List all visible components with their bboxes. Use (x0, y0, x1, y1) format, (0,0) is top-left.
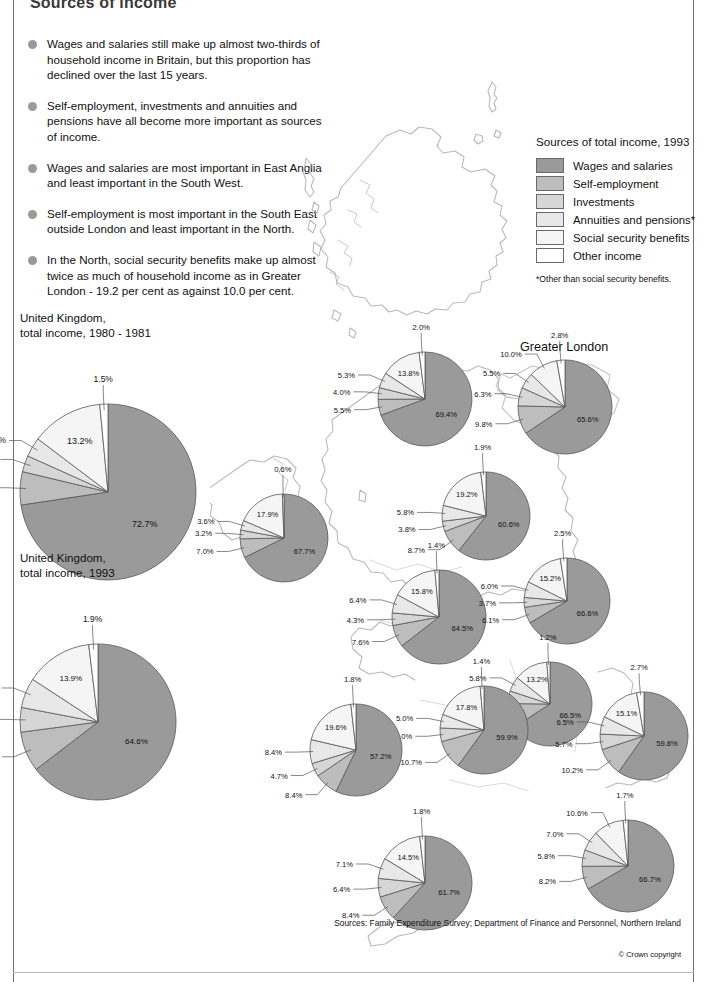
pie-leader-line (577, 722, 605, 726)
pie-slice-label: 4.7% (270, 772, 288, 781)
pie-leader-line (576, 742, 604, 744)
pie-slice-label: 8.4% (265, 748, 283, 757)
list-item-text: In the North, social security benefits m… (47, 252, 328, 299)
pie-leader-line (503, 373, 529, 382)
pie-slice-label: 5.8% (538, 852, 556, 861)
pie-slice-label: 1.9% (83, 614, 103, 624)
pie-slice-label: 9.8% (475, 420, 493, 429)
list-item-text: Wages and salaries still make up almost … (47, 36, 328, 83)
pie-slice-label: 66.7% (639, 875, 661, 884)
pie-slice-label: 5.7% (555, 740, 573, 749)
pie-leader-line (356, 864, 383, 869)
pie-leader-line (353, 887, 381, 889)
legend-label: Social security benefits (573, 232, 690, 244)
list-item: Wages and salaries still make up almost … (28, 36, 328, 83)
pie-slice-label: 15.8% (411, 587, 433, 596)
pie-slice-label: 3.6% (197, 517, 215, 526)
list-item-text: Self-employment, investments and annuiti… (47, 98, 328, 145)
pie-leader-line (494, 394, 522, 398)
pie-leader-line (217, 548, 245, 552)
list-item-text: Self-employment is most important in the… (47, 206, 328, 237)
pie-slice-label: 17.9% (257, 510, 279, 519)
list-item: Wages and salaries are most important in… (28, 160, 328, 191)
pie-slice-label: 8.4% (285, 791, 303, 800)
pie-slice-label: 5.5% (483, 369, 501, 378)
pie-slice-label: 5.3% (338, 371, 356, 380)
pie-graphic: 61.7%8.4%6.4%7.1%14.5%1.8% (320, 778, 530, 982)
pie-slice-label: 8.2% (539, 877, 557, 886)
pie-slice-label: 2.7% (631, 663, 649, 672)
pie-slice-label: 6.0% (481, 582, 499, 591)
legend-item-self-employment: Self-employment (536, 176, 701, 191)
legend: Sources of total income, 1993 Wages and … (536, 134, 701, 284)
chart-title: United Kingdom, total income, 1980 - 198… (20, 310, 254, 340)
pie-slice-label: 7.0% (196, 547, 214, 556)
pie-slice-label: 6.4% (333, 885, 351, 894)
pie-slice-label: 7.1% (336, 860, 354, 869)
pie-slice-label: 59.9% (496, 733, 518, 742)
pie-slice-label: 4.3% (347, 616, 365, 625)
legend-title: Sources of total income, 1993 (536, 134, 701, 149)
pie-slice-label: 15.2% (539, 574, 561, 583)
pie-slice-label: 10.0% (500, 350, 522, 359)
pie-leader-line (499, 602, 527, 603)
pie-chart-south-west: 61.7%8.4%6.4%7.1%14.5%1.8% (320, 778, 530, 982)
legend-footnote: *Other than social security benefits. (536, 274, 701, 284)
legend-label: Self-employment (573, 178, 658, 190)
pie-leader-line (0, 719, 25, 720)
pie-leader-line (559, 877, 587, 881)
pie-slice-label: 2.5% (554, 529, 572, 538)
legend-label: Investments (573, 196, 634, 208)
list-item: Self-employment, investments and annuiti… (28, 98, 328, 145)
pie-slice-label: 72.7% (132, 519, 158, 529)
bullet-dot-icon (28, 102, 37, 111)
legend-swatch (536, 194, 564, 209)
pie-graphic: 65.6%9.8%6.3%5.5%10.0%2.8% (460, 302, 670, 512)
pie-slice-label: 4.0% (333, 388, 351, 397)
pie-leader-line (353, 392, 381, 394)
pie-slice-label: 0.6% (274, 465, 292, 474)
pie-slice-label: 6.3% (474, 390, 492, 399)
pie-slice-label: 1.8% (413, 807, 431, 816)
key-points-list: Wages and salaries still make up almost … (28, 36, 328, 314)
pie-leader-line (495, 419, 523, 424)
pie-leader-line (369, 600, 397, 605)
pie-leader-line (217, 521, 244, 526)
legend-swatch (536, 176, 564, 191)
legend-label: Annuities and pensions* (573, 214, 695, 226)
legend-label: Wages and salaries (573, 160, 673, 172)
pie-slice-label: 1.5% (94, 374, 114, 384)
pie-slice-label: 1.8% (344, 675, 362, 684)
legend-label: Other income (573, 250, 641, 262)
page-title: Sources of income (30, 0, 177, 12)
list-item-text: Wages and salaries are most important in… (47, 160, 328, 191)
pie-leader-line (367, 619, 395, 620)
list-item: In the North, social security benefits m… (28, 252, 328, 299)
legend-swatch (536, 212, 564, 227)
pie-slice-label: 7.0% (546, 830, 564, 839)
pie-leader-line (501, 586, 528, 590)
bullet-dot-icon (28, 40, 37, 49)
pie-slice-label: 6.5% (556, 718, 574, 727)
pie-slice-label: 6.4% (349, 596, 367, 605)
pie-slice-label: 1.7% (616, 791, 634, 800)
pie-leader-line (558, 856, 586, 859)
pie-slice-label: 15.1% (616, 709, 638, 718)
pie-slice-label: 10.6% (566, 809, 588, 818)
pie-slice-label: 2.8% (551, 331, 569, 340)
pie-slice-label: 14.5% (398, 853, 420, 862)
pie-leader-line (291, 769, 318, 776)
pie-slice-label: 3.6% (0, 435, 7, 445)
pie-slice-label: 5.5% (334, 406, 352, 415)
pie-slice-label: 1.4% (428, 541, 446, 550)
pie-slice-label: 67.7% (294, 547, 316, 556)
pie-slice-label: 59.8% (656, 739, 678, 748)
pie-graphic: 66.7%8.2%5.8%7.0%10.6%1.7% (524, 762, 703, 970)
bullet-dot-icon (28, 210, 37, 219)
pie-leader-line (354, 407, 382, 410)
pie-leader-line (215, 533, 243, 534)
legend-item-investments: Investments (536, 194, 701, 209)
list-item: Self-employment is most important in the… (28, 206, 328, 237)
copyright-note: © Crown copyright (618, 950, 681, 959)
pie-slice-label: 13.2% (67, 436, 93, 446)
